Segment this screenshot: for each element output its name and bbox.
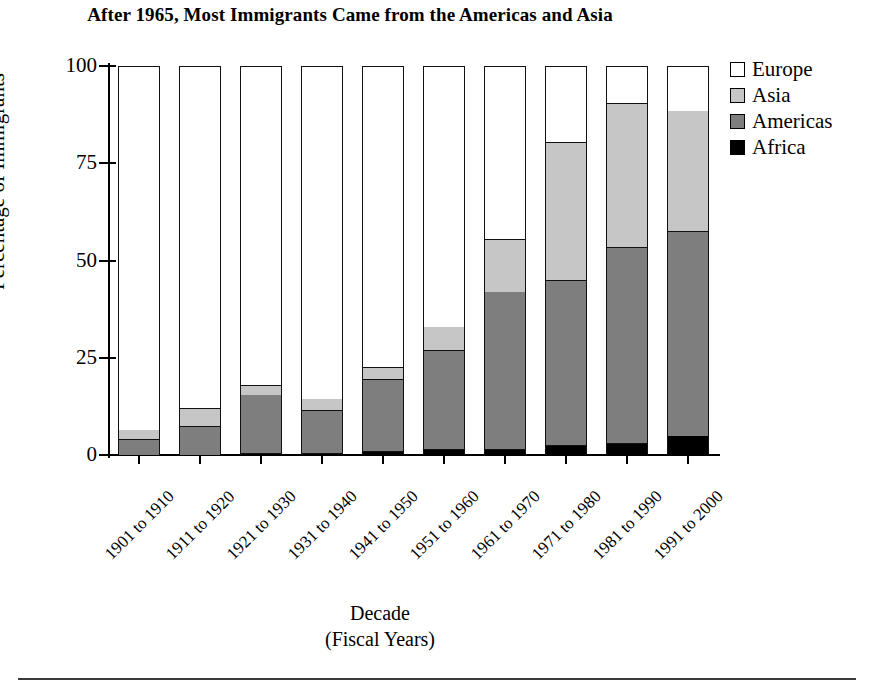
bar-group-1991-to-2000[interactable] [667, 66, 709, 455]
y-tick-inner-25 [108, 357, 116, 359]
bar-segment-americas[interactable] [362, 379, 404, 451]
x-tick-9 [626, 455, 628, 464]
x-tick-1 [138, 455, 140, 464]
y-axis-label-75: 75 [41, 152, 97, 173]
bar-segment-americas[interactable] [545, 280, 587, 445]
bar-group-1931-to-1940[interactable] [301, 66, 343, 455]
bar-segment-asia[interactable] [301, 399, 343, 411]
bar-segment-asia[interactable] [362, 368, 404, 380]
y-axis-label-100: 100 [41, 55, 97, 76]
bar-segment-asia[interactable] [118, 430, 160, 440]
x-tick-4 [321, 455, 323, 464]
legend-item-asia[interactable]: Asia [730, 82, 832, 108]
bar-segment-americas[interactable] [118, 439, 160, 455]
bar-group-1971-to-1980[interactable] [545, 66, 587, 455]
y-tick-inner-75 [108, 162, 116, 164]
bar-segment-americas[interactable] [240, 395, 282, 453]
y-tick-25 [99, 357, 108, 359]
bar-segment-europe[interactable] [240, 66, 282, 385]
bar-segment-asia[interactable] [179, 408, 221, 426]
bar-segment-asia[interactable] [484, 239, 526, 292]
legend-swatch-asia-icon [730, 88, 745, 103]
bar-segment-americas[interactable] [423, 350, 465, 449]
y-tick-100 [99, 65, 108, 67]
x-axis-title-line2: (Fiscal Years) [0, 626, 760, 652]
legend-item-americas[interactable]: Americas [730, 108, 832, 134]
legend-label: Asia [752, 85, 791, 106]
y-axis-title: Percentage of Immigrants [0, 2, 10, 362]
x-tick-6 [443, 455, 445, 464]
bar-segment-europe[interactable] [545, 66, 587, 142]
x-tick-5 [382, 455, 384, 464]
bar-group-1901-to-1910[interactable] [118, 66, 160, 455]
x-tick-8 [565, 455, 567, 464]
bar-segment-europe[interactable] [179, 66, 221, 408]
bar-segment-americas[interactable] [606, 247, 648, 443]
legend-label: Europe [752, 59, 813, 80]
bar-segment-asia[interactable] [545, 142, 587, 280]
legend-swatch-africa-icon [730, 140, 745, 155]
legend-item-europe[interactable]: Europe [730, 56, 832, 82]
legend-label: Africa [752, 137, 806, 158]
x-tick-2 [199, 455, 201, 464]
x-axis-title: Decade (Fiscal Years) [0, 600, 760, 652]
y-axis-label-0: 0 [41, 444, 97, 465]
chart-title: After 1965, Most Immigrants Came from th… [0, 4, 700, 26]
legend-swatch-europe-icon [730, 62, 745, 77]
bar-segment-americas[interactable] [301, 410, 343, 453]
legend: EuropeAsiaAmericasAfrica [730, 56, 832, 160]
legend-label: Americas [752, 111, 832, 132]
bar-segment-europe[interactable] [118, 66, 160, 430]
bar-segment-europe[interactable] [606, 66, 648, 103]
y-tick-75 [99, 162, 108, 164]
bar-segment-americas[interactable] [667, 231, 709, 435]
bar-segment-africa[interactable] [606, 443, 648, 455]
plot-area: 0255075100 [108, 66, 718, 455]
bar-segment-europe[interactable] [423, 66, 465, 327]
y-tick-0 [99, 454, 108, 456]
bar-segment-europe[interactable] [667, 66, 709, 111]
bar-segment-americas[interactable] [484, 292, 526, 450]
bar-group-1921-to-1930[interactable] [240, 66, 282, 455]
bar-segment-asia[interactable] [606, 103, 648, 247]
y-tick-50 [99, 260, 108, 262]
legend-swatch-americas-icon [730, 114, 745, 129]
bar-group-1961-to-1970[interactable] [484, 66, 526, 455]
bar-group-1981-to-1990[interactable] [606, 66, 648, 455]
bar-group-1941-to-1950[interactable] [362, 66, 404, 455]
y-tick-inner-100 [108, 65, 116, 67]
x-tick-10 [687, 455, 689, 464]
bar-segment-americas[interactable] [179, 426, 221, 455]
bar-segment-africa[interactable] [545, 445, 587, 455]
bar-group-1911-to-1920[interactable] [179, 66, 221, 455]
legend-item-africa[interactable]: Africa [730, 134, 832, 160]
y-axis-label-50: 50 [41, 250, 97, 271]
bar-segment-africa[interactable] [667, 436, 709, 455]
y-tick-inner-50 [108, 260, 116, 262]
bar-segment-europe[interactable] [362, 66, 404, 367]
x-tick-3 [260, 455, 262, 464]
x-axis-title-line1: Decade [0, 600, 760, 626]
y-axis-label-25: 25 [41, 347, 97, 368]
bar-segment-asia[interactable] [423, 327, 465, 350]
footer-divider [18, 678, 856, 680]
bar-segment-asia[interactable] [667, 111, 709, 232]
bar-segment-asia[interactable] [240, 385, 282, 395]
x-tick-7 [504, 455, 506, 464]
bar-group-1951-to-1960[interactable] [423, 66, 465, 455]
bar-segment-europe[interactable] [484, 66, 526, 239]
bar-segment-europe[interactable] [301, 66, 343, 399]
